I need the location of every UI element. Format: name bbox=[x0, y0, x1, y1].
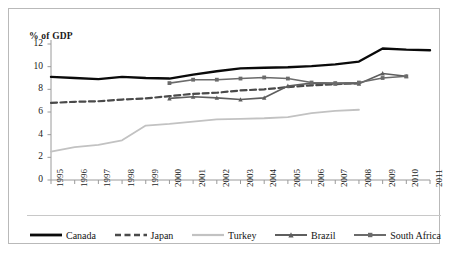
x-tick-label: 2008 bbox=[363, 169, 373, 187]
marker-south-africa bbox=[333, 81, 337, 85]
x-tick-label: 2010 bbox=[410, 169, 420, 187]
y-tick-label: 2 bbox=[25, 151, 43, 161]
marker-south-africa bbox=[310, 81, 314, 85]
x-tick-label: 1995 bbox=[55, 169, 65, 187]
marker-south-africa bbox=[168, 81, 172, 85]
x-tick-label: 1998 bbox=[126, 169, 136, 187]
x-tick-label: 1997 bbox=[102, 169, 112, 187]
x-tick-label: 2005 bbox=[292, 169, 302, 187]
marker-south-africa bbox=[404, 74, 408, 78]
y-tick-label: 0 bbox=[25, 174, 43, 184]
marker-south-africa bbox=[191, 78, 195, 82]
y-tick-label: 10 bbox=[25, 61, 43, 71]
marker-south-africa bbox=[357, 81, 361, 85]
y-tick-label: 4 bbox=[25, 129, 43, 139]
series-line-japan bbox=[51, 83, 359, 103]
x-tick-label: 1999 bbox=[150, 169, 160, 187]
x-tick-label: 2001 bbox=[197, 169, 207, 187]
x-tick-label: 2006 bbox=[316, 169, 326, 187]
marker-south-africa bbox=[215, 78, 219, 82]
plot-area: 0246810121995199619971998199920002001200… bbox=[8, 8, 440, 244]
y-tick-label: 8 bbox=[25, 83, 43, 93]
x-tick-label: 2011 bbox=[434, 169, 444, 187]
x-tick-label: 2000 bbox=[173, 169, 183, 187]
marker-south-africa bbox=[239, 77, 243, 81]
x-tick-label: 2003 bbox=[245, 169, 255, 187]
x-tick-label: 1996 bbox=[79, 169, 89, 187]
series-line-canada bbox=[51, 49, 430, 80]
marker-south-africa bbox=[286, 77, 290, 81]
chart-canvas bbox=[8, 8, 440, 244]
marker-south-africa bbox=[381, 76, 385, 80]
x-tick-label: 2004 bbox=[268, 169, 278, 187]
y-tick-label: 12 bbox=[25, 38, 43, 48]
y-tick-label: 6 bbox=[25, 106, 43, 116]
series-line-turkey bbox=[51, 110, 359, 152]
x-tick-label: 2002 bbox=[221, 169, 231, 187]
marker-south-africa bbox=[262, 76, 266, 80]
x-tick-label: 2007 bbox=[339, 169, 349, 187]
x-tick-label: 2009 bbox=[387, 169, 397, 187]
